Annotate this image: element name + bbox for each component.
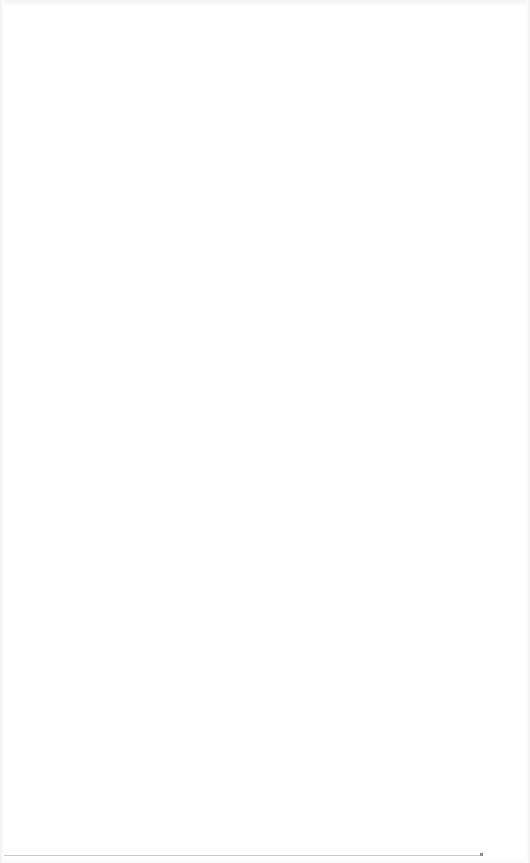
bottom-divider-line xyxy=(4,855,482,856)
right-edge-shadow xyxy=(526,0,530,863)
blank-page xyxy=(0,0,530,863)
empty-content-area xyxy=(4,6,526,854)
divider-end-mark xyxy=(480,853,483,856)
